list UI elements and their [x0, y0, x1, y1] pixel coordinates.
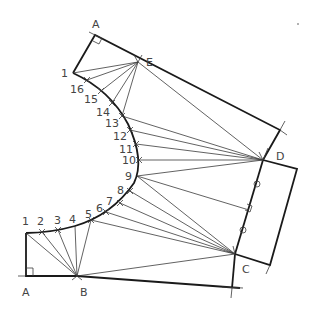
development-diagram: A E D C B A 1 16 15 14 13 12 11 10 9 8 7…: [0, 0, 311, 311]
label-point-5: 5: [85, 208, 92, 221]
label-D: D: [276, 150, 284, 163]
label-point-8: 8: [117, 184, 124, 197]
label-point-4: 4: [69, 213, 76, 226]
top-outline: [73, 35, 280, 160]
speck: [297, 23, 299, 25]
label-point-12: 12: [113, 130, 127, 143]
label-point-6: 6: [96, 202, 103, 215]
label-point-1-top: 1: [61, 67, 68, 80]
label-E: E: [146, 56, 153, 69]
label-point-9: 9: [125, 170, 132, 183]
label-A-top: A: [92, 18, 100, 31]
triangulation-lines: [26, 62, 263, 276]
label-C: C: [242, 263, 250, 276]
label-point-10: 10: [122, 154, 136, 167]
label-point-1-bottom: 1: [22, 215, 29, 228]
label-point-2: 2: [37, 215, 44, 228]
outline: [18, 32, 297, 298]
label-A-bottom: A: [22, 286, 30, 299]
label-point-13: 13: [105, 117, 119, 130]
label-B: B: [80, 286, 88, 299]
right-rect: [235, 160, 297, 265]
label-point-3: 3: [54, 214, 61, 227]
label-point-15: 15: [84, 93, 98, 106]
label-point-16: 16: [70, 83, 84, 96]
label-point-7: 7: [106, 195, 113, 208]
